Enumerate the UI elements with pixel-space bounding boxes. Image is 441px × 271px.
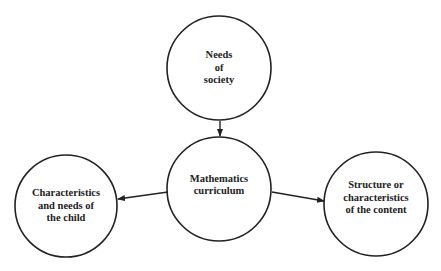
arrow-curriculum-to-child — [118, 192, 168, 199]
society-line-1: Needs — [206, 49, 233, 62]
content-line-1: Structure or — [348, 179, 404, 192]
curriculum-line-1: Mathematics — [190, 173, 248, 186]
content-line-2: characteristics — [343, 192, 408, 205]
child-line-1: Characteristics — [32, 187, 100, 200]
curriculum-line-2: curriculum — [194, 185, 245, 198]
child-line-3: the child — [47, 212, 86, 225]
node-label-curriculum: Mathematics curriculum — [167, 137, 271, 233]
arrow-curriculum-to-content — [272, 192, 324, 201]
society-line-2: of — [215, 62, 224, 75]
content-line-3: of the content — [345, 204, 406, 217]
node-label-society: Needs of society — [167, 16, 271, 120]
society-line-3: society — [204, 74, 234, 87]
node-label-child: Characteristics and needs of the child — [15, 155, 117, 257]
child-line-2: and needs of — [38, 200, 94, 213]
node-label-content: Structure or characteristics of the cont… — [324, 146, 428, 250]
